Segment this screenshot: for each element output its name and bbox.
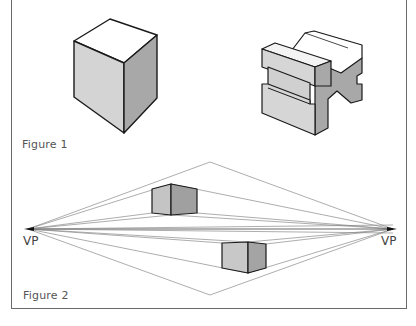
illustration-page: Figure 1 VP VP Figure 2	[0, 0, 416, 326]
vp-left-marker	[24, 227, 34, 231]
vp-right-marker	[387, 227, 397, 231]
figure2-caption: Figure 2	[23, 289, 69, 302]
figure1-caption: Figure 1	[22, 138, 68, 151]
vp-right-label: VP	[381, 234, 396, 248]
drawing-canvas	[0, 0, 416, 326]
figure1-cube	[74, 19, 157, 133]
figure1-v-block	[262, 31, 362, 135]
figure2-upper-box	[152, 184, 197, 215]
vp-left-label: VP	[23, 234, 38, 248]
figure2-lower-box	[222, 242, 266, 273]
figure2-guides	[28, 162, 393, 295]
